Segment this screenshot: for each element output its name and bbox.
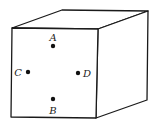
point-c-label: C [14,67,22,78]
point-d-dot [76,71,80,75]
point-b-label: B [48,105,56,116]
point-d-label: D [82,68,91,79]
cube-diagram: A B C D [0,0,156,128]
point-a-dot [51,44,55,48]
point-b-dot [51,97,55,101]
cube-right-face [96,11,148,118]
point-a-label: A [48,32,56,43]
point-c-dot [26,70,30,74]
